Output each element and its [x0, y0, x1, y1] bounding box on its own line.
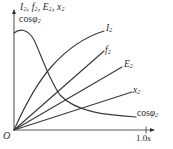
curve-label-x2: x2	[133, 86, 140, 96]
y-axis-title-line1-text: I2, f2, E2, x2	[20, 2, 65, 12]
y-axis-title-line1: I2, f2, E2, x2	[20, 3, 65, 13]
curve-label-e2: E2	[124, 60, 133, 70]
origin-label: O	[3, 131, 10, 141]
curve-x2	[14, 92, 132, 130]
y-axis-title-line2: cosφ2	[19, 15, 41, 25]
figure-canvas: I2, f2, E2, x2 cosφ2 I2 f2 E2 x2 cosφ2 O…	[0, 0, 173, 149]
x-axis-tick-label: 1.0s	[136, 134, 151, 143]
curve-label-cosphi2: cosφ2	[137, 109, 158, 119]
curve-cosphi2	[14, 30, 136, 117]
curve-label-i2: I2	[106, 24, 112, 34]
x-axis-unit: s	[147, 133, 151, 143]
x-tick-value: 1.0	[136, 133, 147, 143]
curve-label-f2: f2	[105, 46, 111, 56]
curve-f2	[14, 51, 104, 130]
